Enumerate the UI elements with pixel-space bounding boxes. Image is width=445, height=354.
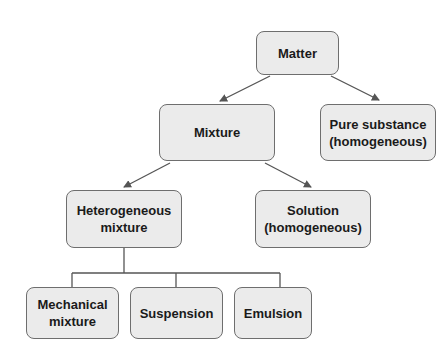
arrow-mixture-to-solution — [265, 163, 311, 187]
bracket-heterogeneous-children — [72, 248, 280, 287]
node-pure-substance: Pure substance (homogeneous) — [320, 104, 436, 161]
node-heterogeneous-mixture: Heterogeneous mixture — [66, 190, 182, 248]
node-emulsion: Emulsion — [234, 287, 312, 339]
node-mechanical-mixture: Mechanical mixture — [26, 287, 119, 339]
node-solution-label: Solution (homogeneous) — [264, 202, 362, 236]
node-matter: Matter — [256, 31, 339, 75]
node-solution: Solution (homogeneous) — [255, 190, 371, 248]
node-emulsion-label: Emulsion — [244, 305, 303, 322]
arrow-mixture-to-heterogeneous — [124, 163, 170, 187]
node-mixture-label: Mixture — [194, 124, 240, 141]
node-suspension: Suspension — [130, 287, 223, 339]
arrow-matter-to-mixture — [220, 76, 270, 101]
node-matter-label: Matter — [278, 45, 317, 62]
matter-classification-diagram: Matter Mixture Pure substance (homogeneo… — [0, 0, 445, 354]
node-pure-substance-label: Pure substance (homogeneous) — [329, 116, 427, 150]
node-mechanical-mixture-label: Mechanical mixture — [37, 296, 107, 330]
node-heterogeneous-mixture-label: Heterogeneous mixture — [77, 202, 172, 236]
node-mixture: Mixture — [159, 104, 275, 161]
arrow-matter-to-pure-substance — [331, 76, 379, 100]
node-suspension-label: Suspension — [140, 305, 214, 322]
